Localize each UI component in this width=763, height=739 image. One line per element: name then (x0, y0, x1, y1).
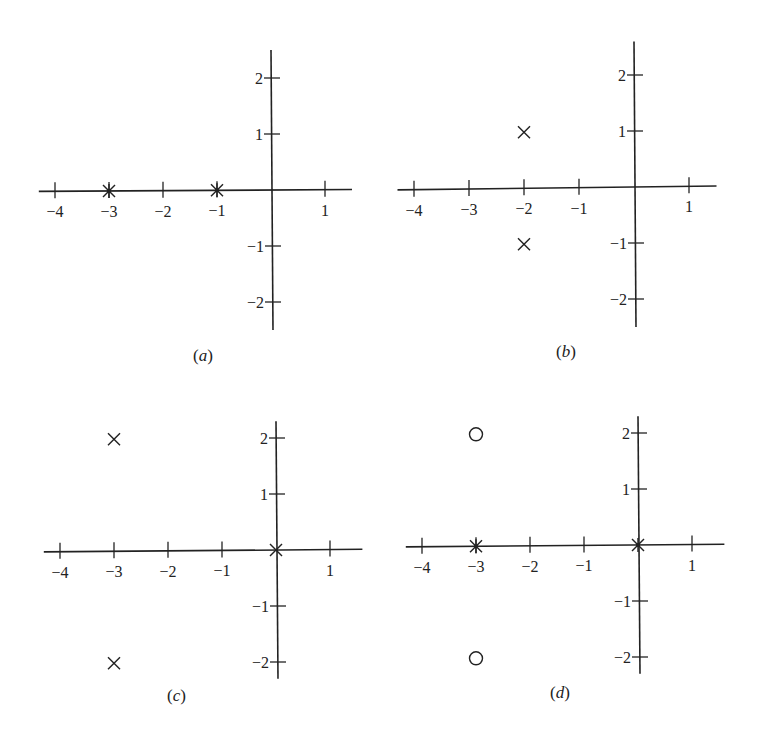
y-tick-label: 2 (622, 425, 630, 442)
x-tick-label: 1 (688, 557, 696, 574)
y-tick-label: 1 (622, 481, 630, 498)
y-tick-label: −2 (614, 649, 631, 666)
real-axis (406, 544, 725, 547)
x-tick-label: −3 (467, 558, 484, 575)
x-tick-label: −1 (575, 557, 592, 574)
y-tick-label: −1 (614, 593, 631, 610)
x-tick-label: −4 (413, 559, 430, 576)
zero-marker-o-icon (470, 652, 483, 665)
x-tick-label: −2 (521, 558, 538, 575)
zero-marker-o-icon (470, 428, 483, 441)
plot-d: −4−3−2−1121−1−2 (0, 0, 763, 739)
caption-d: (d) (550, 683, 570, 703)
